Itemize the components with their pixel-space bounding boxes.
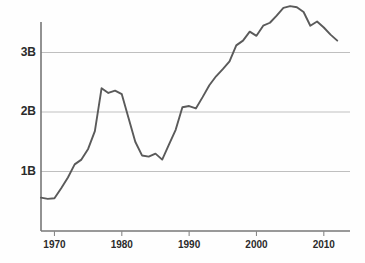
gridlines <box>41 53 350 172</box>
x-tick-label-1990: 1990 <box>169 239 209 250</box>
data-series-lines <box>41 6 337 199</box>
chart-plot-area <box>0 0 365 263</box>
y-tick-label-3B: 3B <box>4 45 36 59</box>
line-chart: 1B2B3B 19701980199020002010 <box>0 0 365 263</box>
x-tick-label-1980: 1980 <box>102 239 142 250</box>
x-tick-label-1970: 1970 <box>34 239 74 250</box>
axis-lines <box>41 22 350 231</box>
y-tick-label-2B: 2B <box>4 104 36 118</box>
series-line-value <box>41 6 337 199</box>
x-tick-label-2010: 2010 <box>304 239 344 250</box>
y-tick-label-1B: 1B <box>4 164 36 178</box>
x-tick-label-2000: 2000 <box>236 239 276 250</box>
